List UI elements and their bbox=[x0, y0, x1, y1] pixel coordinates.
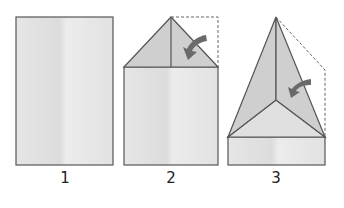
step-1-sheet bbox=[16, 17, 113, 165]
step-1-label: 1 bbox=[50, 169, 80, 187]
step-2-label: 2 bbox=[156, 169, 186, 187]
step-3-label: 3 bbox=[261, 169, 291, 187]
step-3-sheet bbox=[228, 17, 325, 165]
step-2-sheet bbox=[124, 17, 218, 165]
